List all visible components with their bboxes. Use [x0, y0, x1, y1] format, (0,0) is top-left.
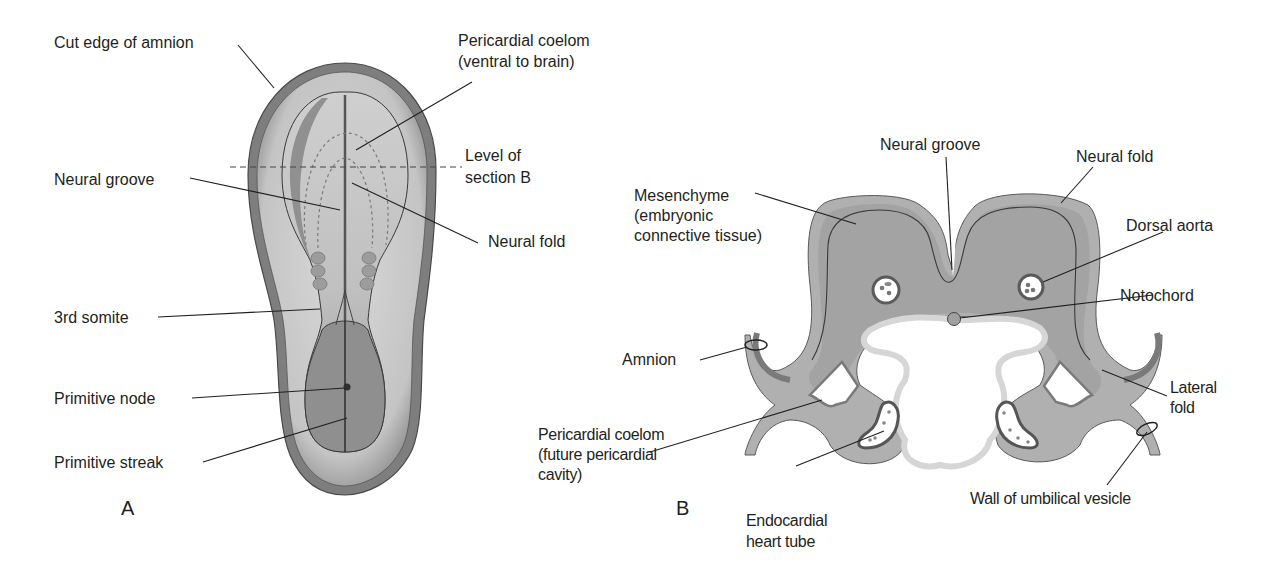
label-dorsal-aorta: Dorsal aorta	[1126, 216, 1213, 235]
label-amnion: Amnion	[622, 350, 676, 369]
label-neural-fold-b: Neural fold	[1076, 147, 1153, 166]
label-pericardial-coelom-b-line2: (future pericardial	[538, 445, 657, 464]
panel-letter-a: A	[121, 497, 134, 520]
label-pericardial-coelom-b-line1: Pericardial coelom	[538, 425, 664, 444]
panel-b-section	[745, 194, 1162, 466]
label-level-of-section-line1: Level of	[465, 146, 521, 165]
embryo-figure: Cut edge of amnion Pericardial coelom (v…	[0, 0, 1282, 583]
label-endocardial-heart-tube-line1: Endocardial	[746, 511, 827, 530]
label-notochord: Notochord	[1120, 286, 1194, 305]
label-wall-of-umbilical-vesicle: Wall of umbilical vesicle	[970, 489, 1131, 508]
dorsal-aorta-right	[1019, 275, 1043, 299]
label-pericardial-coelom-a-line2: (ventral to brain)	[458, 52, 575, 71]
dorsal-aorta-left	[873, 277, 899, 303]
label-cut-edge-of-amnion: Cut edge of amnion	[54, 33, 194, 52]
label-mesenchyme-line1: Mesenchyme	[634, 186, 729, 205]
label-lateral-fold-line1: Lateral	[1170, 378, 1217, 397]
label-endocardial-heart-tube-line2: heart tube	[746, 532, 815, 551]
panel-letter-b: B	[676, 497, 689, 520]
label-level-of-section-line2: section B	[465, 168, 531, 187]
label-primitive-streak: Primitive streak	[54, 453, 163, 472]
label-mesenchyme-line3: connective tissue)	[634, 226, 762, 245]
label-lateral-fold-line2: fold	[1170, 398, 1195, 417]
panel-a-embryo	[230, 63, 462, 495]
label-mesenchyme-line2: (embryonic	[634, 206, 713, 225]
label-neural-fold-a: Neural fold	[488, 232, 565, 251]
label-pericardial-coelom-a-line1: Pericardial coelom	[458, 31, 590, 50]
label-3rd-somite: 3rd somite	[54, 308, 129, 327]
label-pericardial-coelom-b-line3: cavity)	[538, 465, 582, 484]
label-neural-groove-a: Neural groove	[54, 170, 155, 189]
label-neural-groove-b: Neural groove	[880, 135, 981, 154]
label-primitive-node: Primitive node	[54, 389, 155, 408]
